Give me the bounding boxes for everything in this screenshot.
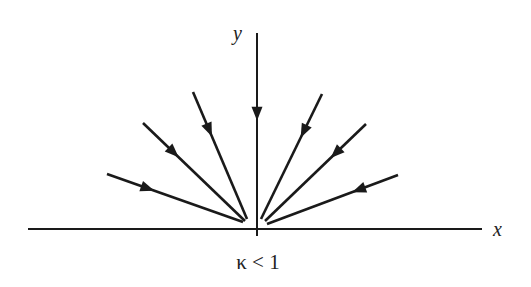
x-axis-label: x: [492, 218, 502, 240]
arrowhead-icon: [352, 182, 367, 192]
trajectory-rays: [107, 33, 398, 225]
arrowhead-icon: [201, 122, 212, 137]
phase-portrait-diagram: y x κ < 1: [0, 0, 531, 287]
arrowhead-icon: [301, 123, 312, 138]
y-axis-label: y: [231, 22, 242, 45]
ray-left-3: [193, 92, 247, 219]
ray-right-1: [261, 94, 322, 219]
caption-kappa-less-than-one: κ < 1: [236, 250, 279, 274]
arrowhead-icon: [139, 181, 154, 191]
ray-left-2: [143, 123, 245, 221]
arrowhead-icon: [252, 107, 263, 121]
